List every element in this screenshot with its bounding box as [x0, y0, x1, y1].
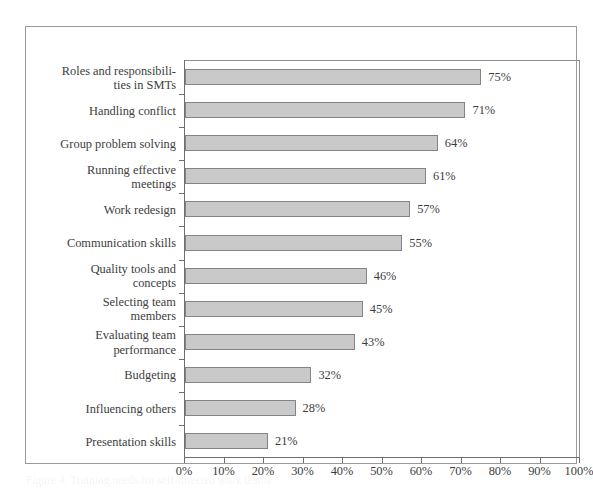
- x-axis-tick: [263, 457, 264, 463]
- bar-value-label: 43%: [356, 334, 385, 350]
- bar-value-label: 75%: [482, 69, 511, 85]
- bar-value-label: 55%: [403, 235, 432, 251]
- category-label: Roles and responsibili- ties in SMTs: [48, 63, 184, 91]
- figure-frame: Roles and responsibili- ties in SMTs75%H…: [25, 26, 577, 464]
- bar: [185, 268, 367, 284]
- bar-value-label: 45%: [364, 301, 393, 317]
- bar-row: Group problem solving64%: [184, 127, 579, 160]
- x-axis-tick: [342, 457, 343, 463]
- bar-row: Selecting team members45%: [184, 293, 579, 326]
- bar: [185, 433, 268, 449]
- x-axis-tick: [224, 457, 225, 463]
- category-label: Running effective meetings: [48, 163, 184, 191]
- x-axis-label: 80%: [489, 464, 512, 478]
- bar: [185, 201, 410, 217]
- category-label: Communication skills: [48, 236, 184, 250]
- x-axis-tick: [421, 457, 422, 463]
- category-label: Work redesign: [48, 203, 184, 217]
- bar: [185, 135, 438, 151]
- bar-row: Handling conflict71%: [184, 94, 579, 127]
- x-axis-tick: [461, 457, 462, 463]
- bar-value-label: 32%: [312, 367, 341, 383]
- plot-area: Roles and responsibili- ties in SMTs75%H…: [184, 60, 579, 457]
- bar: [185, 301, 363, 317]
- bar-row: Evaluating team performance43%: [184, 326, 579, 359]
- bar-value-label: 28%: [297, 400, 326, 416]
- category-label: Handling conflict: [48, 104, 184, 118]
- x-axis-tick: [540, 457, 541, 463]
- category-label: Quality tools and concepts: [48, 262, 184, 290]
- bar-value-label: 21%: [269, 433, 298, 449]
- bar-row: Running effective meetings61%: [184, 160, 579, 193]
- category-label: Group problem solving: [48, 137, 184, 151]
- bar: [185, 168, 426, 184]
- plot-right-border: [579, 60, 580, 458]
- category-label: Evaluating team performance: [48, 328, 184, 356]
- bar-row: Quality tools and concepts46%: [184, 260, 579, 293]
- bar-value-label: 61%: [427, 168, 456, 184]
- x-axis-label: 90%: [528, 464, 551, 478]
- category-label: Budgeting: [48, 368, 184, 382]
- bar: [185, 400, 296, 416]
- bar-row: Communication skills55%: [184, 227, 579, 260]
- figure-caption-ghost: Figure 4. Training needs for self-direct…: [26, 474, 456, 487]
- x-axis-tick: [382, 457, 383, 463]
- bar-row: Influencing others28%: [184, 392, 579, 425]
- bar-value-label: 57%: [411, 201, 440, 217]
- category-label: Influencing others: [48, 401, 184, 415]
- bar-value-label: 71%: [466, 102, 495, 118]
- bar-row: Budgeting32%: [184, 359, 579, 392]
- x-axis-tick: [303, 457, 304, 463]
- bar: [185, 102, 465, 118]
- x-axis-tick: [184, 457, 185, 463]
- bar: [185, 367, 311, 383]
- category-label: Selecting team members: [48, 295, 184, 323]
- bar: [185, 69, 481, 85]
- bar-row: Presentation skills21%: [184, 425, 579, 458]
- bar-value-label: 46%: [368, 268, 397, 284]
- bar-row: Roles and responsibili- ties in SMTs75%: [184, 61, 579, 94]
- bar: [185, 235, 402, 251]
- bar-row: Work redesign57%: [184, 193, 579, 226]
- bar-value-label: 64%: [439, 135, 468, 151]
- x-axis-label: 100%: [565, 464, 593, 478]
- category-label: Presentation skills: [48, 435, 184, 449]
- bar: [185, 334, 355, 350]
- x-axis-tick: [500, 457, 501, 463]
- x-axis-tick: [579, 457, 580, 463]
